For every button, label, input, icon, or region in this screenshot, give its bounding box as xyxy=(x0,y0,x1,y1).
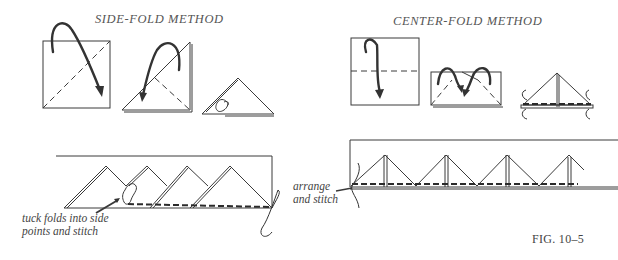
side-fold-annotation: tuck folds into side points and stitch xyxy=(22,212,109,238)
center-fold-step-2 xyxy=(431,68,503,107)
center-fold-annotation-line1: arrange xyxy=(293,180,338,193)
side-fold-annotation-line2: points and stitch xyxy=(22,225,109,238)
figure-10-5: SIDE-FOLD METHOD CENTER-FOLD METHOD xyxy=(0,0,618,260)
figure-caption: FIG. 10–5 xyxy=(532,232,584,247)
center-fold-annotation-line2: and stitch xyxy=(293,193,338,206)
center-fold-step-3 xyxy=(521,73,593,119)
side-fold-step-1 xyxy=(43,23,110,108)
center-fold-strip xyxy=(336,140,618,208)
center-fold-annotation: arrange and stitch xyxy=(293,180,338,206)
side-fold-annotation-line1: tuck folds into side xyxy=(22,212,109,225)
side-fold-step-2 xyxy=(122,42,192,112)
side-fold-step-3 xyxy=(202,78,274,116)
center-fold-step-1 xyxy=(351,38,419,105)
